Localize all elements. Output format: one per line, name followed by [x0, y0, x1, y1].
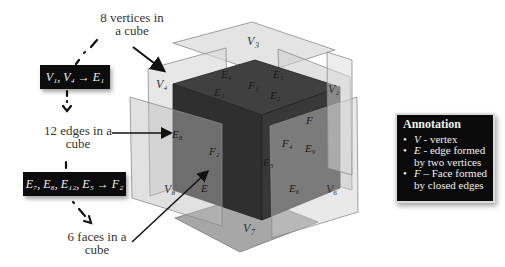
- edge-description: - edge formed by two vertices: [414, 144, 485, 168]
- label-v4: V₄: [156, 77, 168, 91]
- label-f1: F₁: [247, 79, 259, 91]
- face-symbol: F: [414, 167, 421, 179]
- annotation-list: V - vertex E - edge formed by two vertic…: [403, 134, 489, 192]
- face-description: – Face formed by closed edges: [414, 167, 487, 191]
- edges-caption-line2: cube: [38, 137, 118, 150]
- flow-arrow-middle: [63, 91, 71, 111]
- label-e2: E₂: [269, 89, 281, 101]
- vertex-symbol: V: [414, 133, 421, 145]
- vertex-description: - vertex: [421, 133, 458, 145]
- edges-caption: 12 edges in a cube: [38, 124, 118, 150]
- annotation-title: Annotation: [403, 119, 489, 131]
- label-f3: F: [305, 114, 313, 126]
- annotation-item-face: F – Face formed by closed edges: [403, 168, 489, 191]
- label-e9: E₉: [304, 142, 316, 154]
- annotation-item-edge: E - edge formed by two vertices: [403, 145, 489, 168]
- label-v2: V₂: [328, 82, 340, 96]
- edge-symbol: E: [414, 144, 421, 156]
- vertex-to-edge-formula: V₁, V₄ → E₁: [40, 65, 110, 89]
- label-e12: E: [200, 182, 208, 194]
- label-f4: F₄: [281, 137, 293, 149]
- label-e8: E₈: [171, 128, 183, 140]
- vertices-caption: 8 vertices in a cube: [92, 11, 172, 37]
- cube-diagram: V 3 V₄ V₂ E₄ E₃ F₁ E₁ E₂ F E₈ F₂ E₅ F₄ E…: [0, 0, 505, 267]
- faces-caption-line2: cube: [62, 243, 132, 256]
- faces-caption: 6 faces in a cube: [62, 230, 132, 256]
- edges-to-face-formula: E₇, E₈, E₁₂, E₅ → F₂: [23, 172, 126, 196]
- label-e5: E₅: [262, 156, 274, 168]
- flow-arrow-bottom: [73, 202, 91, 223]
- label-e6: E₆: [288, 182, 300, 194]
- annotation-legend: Annotation V - vertex E - edge formed by…: [395, 113, 495, 203]
- label-v8: V₈: [164, 182, 176, 196]
- label-e4: E₄: [220, 68, 232, 80]
- label-e3: E₃: [272, 68, 284, 80]
- label-e1: E₁: [213, 86, 225, 98]
- flow-arrow-top: [76, 40, 97, 64]
- label-v6: V₆: [326, 182, 338, 196]
- label-f2: F₂: [208, 145, 220, 157]
- right-side-plane: [327, 52, 352, 175]
- vertices-caption-line2: a cube: [92, 24, 172, 37]
- label-v3-sub: 3: [254, 41, 259, 50]
- vertices-arrow: [133, 47, 163, 70]
